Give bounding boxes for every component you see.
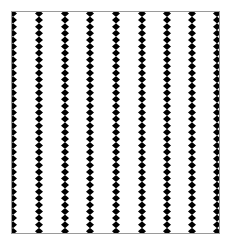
diamond-column-pattern (0, 0, 228, 243)
